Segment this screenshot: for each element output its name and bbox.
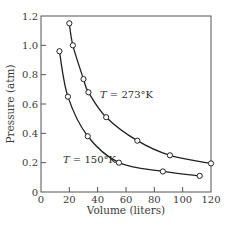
data-point-marker bbox=[135, 138, 140, 143]
x-axis-ticks: 020406080100120 bbox=[38, 187, 221, 205]
data-point-marker bbox=[81, 76, 86, 81]
y-axis-ticks: 00.20.40.60.81.01.2 bbox=[22, 11, 46, 198]
data-point-marker bbox=[67, 21, 72, 26]
data-point-marker bbox=[160, 169, 165, 174]
x-tick-label: 100 bbox=[173, 194, 192, 205]
y-tick-label: 1.2 bbox=[22, 11, 38, 22]
x-tick-label: 120 bbox=[201, 194, 220, 205]
y-tick-label: 0.8 bbox=[22, 69, 38, 80]
y-tick-label: 0.6 bbox=[22, 99, 38, 110]
data-point-marker bbox=[104, 115, 109, 120]
x-tick-label: 0 bbox=[38, 194, 44, 205]
data-point-marker bbox=[70, 43, 75, 48]
y-tick-label: 1.0 bbox=[22, 40, 38, 51]
pressure-volume-chart: 020406080100120 00.20.40.60.81.01.2 T = … bbox=[0, 0, 230, 226]
y-tick-label: 0.4 bbox=[22, 128, 38, 139]
data-point-marker bbox=[116, 160, 121, 165]
data-point-marker bbox=[57, 49, 62, 54]
x-tick-label: 20 bbox=[63, 194, 76, 205]
data-point-marker bbox=[167, 153, 172, 158]
data-point-marker bbox=[85, 134, 90, 139]
y-tick-label: 0 bbox=[32, 187, 38, 198]
curve-label-150: T = 150°K bbox=[63, 154, 116, 165]
curve-label-273: T = 273°K bbox=[100, 89, 153, 100]
y-axis-title: Pressure (atm) bbox=[4, 64, 16, 143]
data-point-marker bbox=[65, 94, 70, 99]
y-tick-label: 0.2 bbox=[22, 157, 38, 168]
x-axis-title: Volume (liters) bbox=[86, 204, 165, 216]
data-point-marker bbox=[197, 173, 202, 178]
data-point-marker bbox=[86, 90, 91, 95]
data-point-marker bbox=[208, 161, 213, 166]
